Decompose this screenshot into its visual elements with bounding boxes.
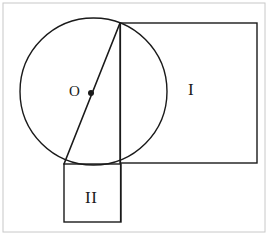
- outer-frame: [3, 3, 265, 232]
- center-dot: [88, 90, 94, 96]
- label-center-point: O: [69, 84, 80, 99]
- figure-vector-layer: [0, 0, 271, 236]
- label-region-two: II: [85, 189, 97, 206]
- geometry-figure-canvas: I II O: [0, 0, 271, 236]
- label-region-one: I: [188, 81, 194, 98]
